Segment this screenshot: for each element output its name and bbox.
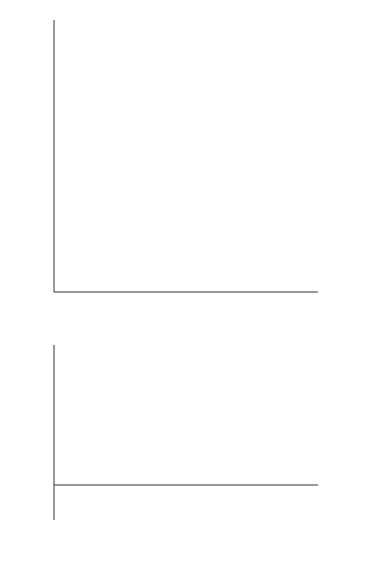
average-marginal-product-chart — [54, 345, 318, 520]
total-product-chart — [54, 20, 318, 292]
chart-canvas — [0, 0, 389, 566]
